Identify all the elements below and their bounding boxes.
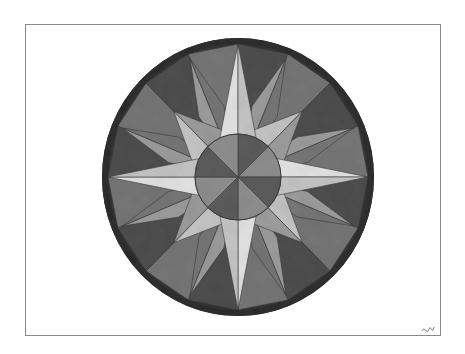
artist-signature (421, 324, 435, 334)
artwork-canvas (0, 0, 465, 354)
compass-rose-painting (0, 0, 465, 354)
